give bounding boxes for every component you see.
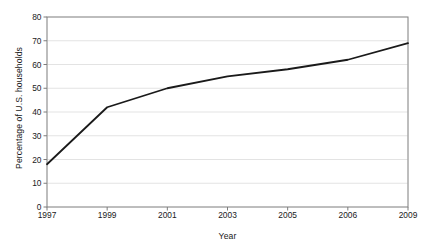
- x-tick-label: 2003: [208, 210, 248, 220]
- x-tick-label: 2001: [147, 210, 187, 220]
- data-line-series-1: [47, 43, 408, 164]
- y-axis-ticks: [44, 17, 48, 207]
- y-tick-label: 20: [20, 155, 42, 165]
- x-tick-label: 2006: [328, 210, 368, 220]
- y-tick-label: 10: [20, 178, 42, 188]
- y-tick-label: 40: [20, 107, 42, 117]
- x-tick-label: 2005: [268, 210, 308, 220]
- chart-figure: Percentage of U.S. households Year 01020…: [0, 0, 431, 249]
- y-tick-label: 30: [20, 131, 42, 141]
- x-tick-label: 1997: [27, 210, 67, 220]
- y-tick-label: 60: [20, 60, 42, 70]
- x-tick-label: 1999: [87, 210, 127, 220]
- x-tick-label: 2009: [388, 210, 428, 220]
- y-tick-label: 50: [20, 83, 42, 93]
- y-tick-label: 80: [20, 12, 42, 22]
- y-tick-label: 70: [20, 36, 42, 46]
